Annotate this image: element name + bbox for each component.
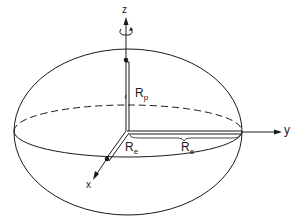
polar-radius-main: R bbox=[135, 86, 144, 100]
rotation-arrowhead-icon bbox=[129, 27, 133, 31]
equatorial-radius-x-a bbox=[106, 131, 126, 159]
polar-radius-label: Rp bbox=[135, 87, 148, 99]
z-axis-label: z bbox=[122, 5, 127, 15]
y-arrowhead-icon bbox=[274, 130, 282, 135]
spheroid-diagram: z y x Rp Re Re bbox=[0, 0, 303, 224]
diagram-canvas bbox=[0, 0, 303, 224]
equator-x-point bbox=[105, 157, 110, 162]
equatorial-radius-x-main: R bbox=[125, 140, 134, 154]
y-axis-label: y bbox=[284, 124, 290, 136]
spheroid-outline bbox=[14, 49, 242, 215]
x-axis bbox=[96, 160, 106, 175]
polar-radius-sub: p bbox=[144, 93, 148, 102]
equatorial-radius-x-label: Re bbox=[125, 141, 138, 153]
equatorial-radius-y-sub: e bbox=[190, 147, 194, 156]
equatorial-radius-y-label: Re bbox=[181, 141, 194, 153]
equator-back bbox=[14, 105, 242, 131]
north-pole-point bbox=[124, 58, 129, 63]
equatorial-radius-y-main: R bbox=[181, 140, 190, 154]
z-arrowhead-icon bbox=[124, 17, 129, 25]
x-axis-label: x bbox=[86, 180, 91, 190]
equatorial-radius-x-sub: e bbox=[134, 147, 138, 156]
